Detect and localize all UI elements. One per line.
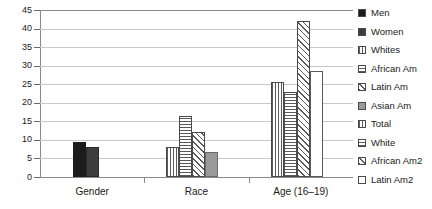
gridline xyxy=(40,10,353,11)
x-axis-separator xyxy=(144,177,145,183)
x-axis-category-label: Gender xyxy=(40,186,144,197)
legend-swatch-icon xyxy=(358,46,366,54)
bar-total xyxy=(271,82,284,177)
legend-item[interactable]: African Am2 xyxy=(358,152,432,171)
legend-swatch-icon xyxy=(358,83,366,91)
legend-item[interactable]: White xyxy=(358,134,432,153)
y-axis-tick-label: 0 xyxy=(0,173,32,182)
y-axis-tick-label: 5 xyxy=(0,154,32,163)
plot-area xyxy=(40,10,353,177)
legend-label: Whites xyxy=(371,45,400,55)
legend: MenWomenWhitesAfrican AmLatin AmAsian Am… xyxy=(358,4,432,189)
y-axis-tick-label: 45 xyxy=(0,6,32,15)
legend-item[interactable]: Total xyxy=(358,115,432,134)
legend-label: Latin Am xyxy=(371,82,408,92)
x-axis-category-label: Age (16–19) xyxy=(249,186,353,197)
y-axis-tick-label: 25 xyxy=(0,80,32,89)
legend-swatch-icon xyxy=(358,157,366,165)
legend-label: Women xyxy=(371,27,404,37)
bar-whites xyxy=(166,147,179,177)
legend-swatch-icon xyxy=(358,28,366,36)
bar-asian-am xyxy=(205,152,218,177)
bar-men xyxy=(73,142,86,177)
legend-item[interactable]: Latin Am xyxy=(358,78,432,97)
y-axis-tick-label: 35 xyxy=(0,43,32,52)
bar-latin-am2 xyxy=(310,71,323,177)
y-axis-labels: 051015202530354045 xyxy=(0,0,32,190)
legend-label: Men xyxy=(371,8,389,18)
legend-item[interactable]: Latin Am2 xyxy=(358,171,432,190)
legend-label: White xyxy=(371,138,395,148)
legend-label: Latin Am2 xyxy=(371,175,413,185)
legend-swatch-icon xyxy=(358,139,366,147)
legend-swatch-icon xyxy=(358,9,366,17)
legend-item[interactable]: African Am xyxy=(358,60,432,79)
x-axis-separator xyxy=(249,177,250,183)
bar-african-am2 xyxy=(297,21,310,177)
legend-item[interactable]: Men xyxy=(358,4,432,23)
legend-label: African Am xyxy=(371,64,417,74)
y-axis-tick-label: 10 xyxy=(0,135,32,144)
legend-item[interactable]: Women xyxy=(358,23,432,42)
x-axis-line xyxy=(40,177,353,178)
legend-swatch-icon xyxy=(358,102,366,110)
y-axis-tick-label: 20 xyxy=(0,98,32,107)
legend-swatch-icon xyxy=(358,65,366,73)
legend-swatch-icon xyxy=(358,120,366,128)
legend-item[interactable]: Whites xyxy=(358,41,432,60)
bar-african-am xyxy=(179,116,192,177)
y-axis-tick-label: 30 xyxy=(0,61,32,70)
y-axis-tick-label: 40 xyxy=(0,24,32,33)
bar-white xyxy=(284,92,297,177)
legend-label: Total xyxy=(371,119,391,129)
bar-chart: 051015202530354045 GenderRaceAge (16–19)… xyxy=(0,0,432,209)
legend-label: Asian Am xyxy=(371,101,411,111)
legend-swatch-icon xyxy=(358,176,366,184)
legend-label: African Am2 xyxy=(371,156,422,166)
bar-latin-am xyxy=(192,132,205,177)
y-axis-tick-label: 15 xyxy=(0,117,32,126)
legend-item[interactable]: Asian Am xyxy=(358,97,432,116)
bar-women xyxy=(86,147,99,177)
x-axis-category-label: Race xyxy=(144,186,248,197)
